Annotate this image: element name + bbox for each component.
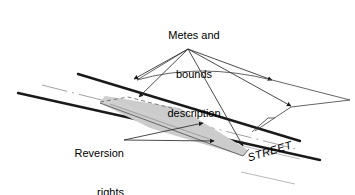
metes-label-line-2: bounds <box>148 68 240 81</box>
metes-label-line-1: Metes and <box>148 29 240 42</box>
street-label-guide-lower <box>241 172 295 184</box>
reversion-label-line-1: Reversion <box>52 147 124 160</box>
reversion-label-line-2: rights <box>52 186 124 195</box>
metes-label-line-3: description <box>148 107 240 120</box>
metes-and-bounds-label: Metes and bounds description <box>148 3 240 146</box>
diagram-canvas: Metes and bounds description Reversion r… <box>0 0 355 195</box>
metes-outer-boundary-lower <box>255 100 350 131</box>
reversion-rights-label: Reversion rights <box>52 121 124 195</box>
